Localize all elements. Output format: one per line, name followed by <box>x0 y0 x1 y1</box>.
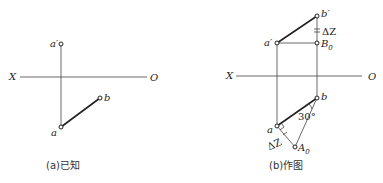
point-a-prime <box>59 42 63 46</box>
point-b-prime <box>315 14 319 18</box>
label-b: b <box>104 92 110 103</box>
axis-label-x-b: X <box>225 70 234 81</box>
label-a-prime-b: a′ <box>264 37 273 48</box>
label-B0: B0 <box>320 38 333 52</box>
label-a: a <box>51 127 57 138</box>
caption-a: (a)已知 <box>46 159 80 171</box>
axis-label-o: O <box>150 72 158 83</box>
axis-label-x: X <box>8 71 17 82</box>
label-delta-z-lower: ΔZ <box>266 136 284 152</box>
figure-a: X O a′ a b (a)已知 <box>8 38 158 171</box>
axis-label-o-b: O <box>368 71 376 82</box>
segment-a-prime-b-prime <box>277 16 317 43</box>
caption-b: (b)作图 <box>269 160 303 171</box>
diagram-canvas: X O a′ a b (a)已知 X O <box>0 0 383 183</box>
point-a <box>59 125 63 129</box>
figure-b: X O a′ b′ B0 ΔZ b a A0 30° Δ <box>225 8 376 171</box>
point-A0 <box>293 145 297 149</box>
angle-arc <box>309 104 312 109</box>
label-a-prime: a′ <box>50 38 59 49</box>
label-a-b: a <box>267 124 273 135</box>
label-delta-z-upper: ΔZ <box>322 26 336 37</box>
point-B0 <box>315 41 319 45</box>
point-a-b <box>275 124 279 128</box>
label-b-b: b <box>321 91 327 102</box>
right-angle-mark <box>280 124 284 130</box>
label-A0: A0 <box>297 142 310 156</box>
point-b-b <box>315 96 319 100</box>
label-b-prime: b′ <box>321 8 330 19</box>
point-a-prime-b <box>275 41 279 45</box>
label-angle-30: 30° <box>298 111 316 122</box>
segment-ab <box>61 98 100 127</box>
point-b <box>98 96 102 100</box>
